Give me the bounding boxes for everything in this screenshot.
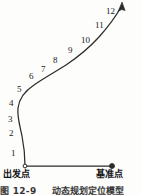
point-label-6: 6 [29,72,34,81]
point-label-9: 9 [68,46,73,55]
arrow-head-icon [118,2,125,11]
point-label-4: 4 [9,99,14,108]
point-label-3: 3 [8,115,13,124]
point-label-2: 2 [9,129,14,138]
reference-point-label: 基准点 [96,169,123,179]
point-label-7: 7 [41,65,46,74]
figure-caption-text: 动态规划定位模型 [52,186,124,195]
start-point-marker [23,164,27,168]
figure-caption-number: 图 12-9 [0,186,36,195]
point-label-11: 11 [95,21,104,30]
figure-container: 1 2 3 4 5 6 7 8 9 10 11 12 出发点 基准点 图 12-… [0,0,141,195]
point-label-5: 5 [17,85,22,94]
figure-caption: 图 12-9 动态规划定位模型 [0,186,141,195]
trajectory-curve [18,7,121,166]
baseline-group [23,164,114,169]
curve-diagram-svg [0,0,141,195]
start-point-label: 出发点 [3,169,30,179]
point-label-8: 8 [53,56,58,65]
point-label-10: 10 [81,36,90,45]
reference-point-marker [110,164,115,169]
trajectory-curve-group [18,2,125,166]
point-label-12: 12 [106,7,115,16]
point-label-1: 1 [11,149,16,158]
